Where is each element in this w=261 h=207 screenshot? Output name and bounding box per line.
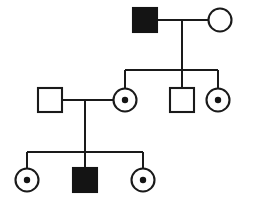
carrier-dot-II-4 <box>215 97 221 103</box>
individual-III-2-affected-male[interactable] <box>73 168 97 192</box>
individual-II-1-unaffected-male[interactable] <box>38 88 62 112</box>
individual-I-1-affected-male[interactable] <box>133 8 157 32</box>
individual-II-3-unaffected-male[interactable] <box>170 88 194 112</box>
carrier-dot-III-3 <box>140 177 146 183</box>
carrier-dot-II-2 <box>122 97 128 103</box>
individual-I-2-unaffected-female[interactable] <box>209 9 232 32</box>
generation-III-group <box>16 168 155 192</box>
carrier-dot-III-1 <box>24 177 30 183</box>
pedigree-chart <box>0 0 261 207</box>
pedigree-canvas <box>0 0 261 207</box>
